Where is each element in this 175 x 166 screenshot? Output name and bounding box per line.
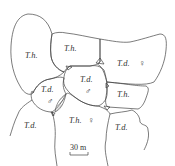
- territory-label: T.d.: [117, 58, 130, 68]
- territory-t3-boundary: [98, 34, 167, 84]
- territory-label: T.d.: [80, 74, 93, 84]
- territory-map: T.h. T.h. T.d. ♀ T.d. ♂ T.d. ♂ T.h. T.h.…: [0, 0, 175, 166]
- territory-label: T.h.: [25, 50, 38, 60]
- territory-label: T.d.: [41, 84, 54, 94]
- sex-symbol: ♀: [88, 115, 94, 125]
- overlap-hatched-area: [55, 94, 66, 112]
- territory-label: T.h.: [64, 43, 77, 53]
- territory-label: T.d.: [115, 122, 128, 132]
- scale-line: [70, 152, 88, 155]
- territory-label: T.h.: [117, 89, 130, 99]
- sex-symbol: ♀: [139, 58, 145, 68]
- junction-triangle: [106, 83, 109, 88]
- scale-bar: 30 m: [70, 143, 88, 155]
- scale-label: 30 m: [70, 143, 87, 152]
- territory-labels: T.h. T.h. T.d. ♀ T.d. ♂ T.d. ♂ T.h. T.h.…: [24, 43, 145, 132]
- territory-label: T.d.: [24, 120, 37, 130]
- territory-label: T.h.: [69, 115, 82, 125]
- sex-symbol: ♂: [85, 86, 91, 96]
- sex-symbol: ♂: [47, 96, 53, 106]
